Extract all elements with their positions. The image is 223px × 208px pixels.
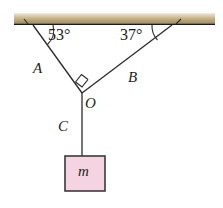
rope-label-a: A <box>33 61 42 76</box>
rope-label-b: B <box>128 70 137 85</box>
right-angle-marker-cap <box>76 75 89 83</box>
diagram-canvas <box>0 0 223 208</box>
junction-label-o: O <box>85 96 96 111</box>
angle-label-37: 37° <box>120 27 142 43</box>
physics-diagram-figure: 53° 37° A B C O m <box>0 0 223 208</box>
mass-label-m: m <box>78 164 89 179</box>
angle-label-53: 53° <box>48 27 70 43</box>
ceiling-beam <box>14 13 215 24</box>
rope-label-c: C <box>58 119 68 134</box>
